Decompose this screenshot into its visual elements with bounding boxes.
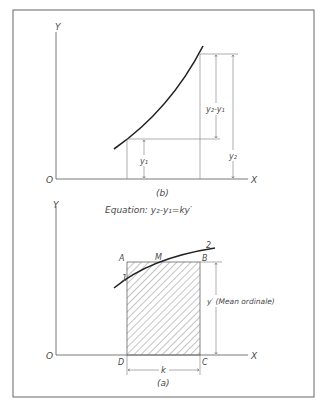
point-1-label: 1 — [122, 274, 127, 283]
corner-c-label: C — [202, 358, 208, 367]
label-y1: y₁ — [139, 157, 148, 166]
mean-ordinate-label: y′ (Mean ordinale) — [206, 297, 275, 306]
label-y2: y₂ — [228, 152, 238, 161]
y-axis-label: Y — [53, 200, 60, 210]
origin-label: O — [46, 175, 53, 185]
corner-d-label: D — [118, 358, 124, 367]
equation: Equation: y₂-y₁=ky′ — [105, 205, 192, 215]
corner-a-label: A — [118, 254, 124, 263]
point-m-label: M — [155, 253, 162, 262]
curve — [114, 46, 203, 149]
x-axis-label: X — [250, 351, 258, 361]
top-panel: Y O X y₂-y₁ y₁ y₂ (b) — [46, 22, 258, 198]
corner-b-label: B — [202, 254, 208, 263]
mean-ordinate-rectangle — [127, 262, 200, 355]
y-axis-label: Y — [55, 22, 62, 32]
origin-label: O — [46, 351, 53, 361]
label-y2-minus-y1: y₂-y₁ — [205, 105, 225, 114]
diagram-canvas: Y O X y₂-y₁ y₁ y₂ (b) Equation: y₂-y₁=ky… — [0, 0, 321, 411]
caption-b: (b) — [156, 188, 169, 198]
point-2-label: 2 — [206, 241, 211, 250]
bottom-panel: Y O X A B C D M 1 2 y′ (Mean ordinale) k… — [46, 200, 278, 388]
x-axis-label: X — [250, 175, 258, 185]
caption-a: (a) — [157, 378, 170, 388]
